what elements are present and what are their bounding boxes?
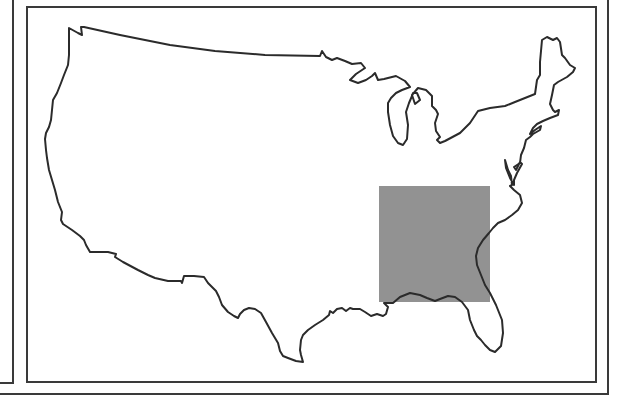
map-figure: [0, 0, 621, 403]
left-panel-frame: [0, 0, 13, 383]
highlight-region-southeast: [379, 186, 490, 302]
us-outline: [45, 27, 575, 362]
map-inner-frame: [27, 7, 596, 382]
